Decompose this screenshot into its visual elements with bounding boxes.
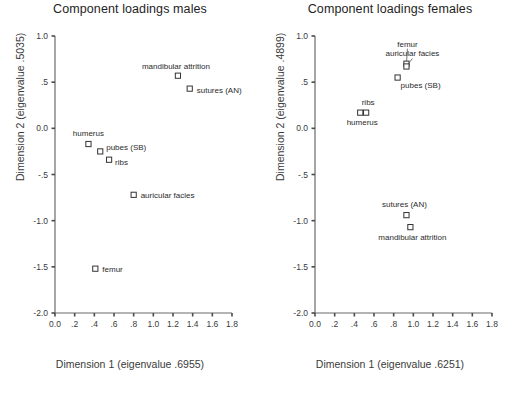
data-point-marker xyxy=(358,110,363,115)
data-point-marker xyxy=(131,192,136,197)
y-tick-label: -1.0 xyxy=(33,216,48,226)
data-point-label: humerus xyxy=(73,129,104,138)
x-tick-label: 1.8 xyxy=(486,319,498,329)
data-point-marker xyxy=(106,157,111,162)
x-tick-label: .2 xyxy=(71,319,78,329)
data-point-marker xyxy=(404,213,409,218)
x-tick-label: .4 xyxy=(351,319,358,329)
y-tick-label: .5 xyxy=(301,77,308,87)
y-tick-label: 0.0 xyxy=(296,123,308,133)
data-point-marker xyxy=(93,266,98,271)
scatter-plot-males: 1.0.50.0-.5-1.0-1.5-2.00.0.2.4.6.81.01.2… xyxy=(0,0,260,395)
x-tick-label: 0.0 xyxy=(309,319,321,329)
chart-panel-females: Component loadings females Dimension 2 (… xyxy=(260,0,520,395)
data-point-marker xyxy=(98,149,103,154)
y-tick-label: -2.0 xyxy=(293,308,308,318)
chart-panel-males: Component loadings males Dimension 2 (ei… xyxy=(0,0,260,395)
x-tick-label: 1.2 xyxy=(427,319,439,329)
x-axis-title-males: Dimension 1 (eigenvalue .6955) xyxy=(0,358,260,370)
data-point-label: mandibular attrition xyxy=(142,62,210,71)
data-point-label: pubes (SB) xyxy=(106,143,146,152)
data-point-label: sutures (AN) xyxy=(197,86,242,95)
x-tick-label: .8 xyxy=(390,319,397,329)
data-point-label: auricular facies xyxy=(141,191,195,200)
y-tick-label: -2.0 xyxy=(33,308,48,318)
data-point-label: humerus xyxy=(347,118,378,127)
data-point-label: auricular facies xyxy=(386,49,440,58)
data-point-marker xyxy=(404,64,409,69)
scatter-plot-females: 1.0.50.0-.5-1.0-1.5-2.00.0.2.4.6.81.01.2… xyxy=(260,0,520,395)
data-point-marker xyxy=(364,110,369,115)
data-point-label: ribs xyxy=(362,98,375,107)
data-point-label: sutures (AN) xyxy=(382,200,427,209)
data-point-label: mandibular attrition xyxy=(378,233,446,242)
y-tick-label: .5 xyxy=(41,77,48,87)
x-tick-label: 1.6 xyxy=(206,319,218,329)
y-tick-label: 1.0 xyxy=(36,31,48,41)
x-tick-label: 1.4 xyxy=(447,319,459,329)
x-tick-label: 1.0 xyxy=(147,319,159,329)
data-point-marker xyxy=(175,73,180,78)
x-tick-label: 0.0 xyxy=(49,319,61,329)
y-tick-label: -1.5 xyxy=(293,262,308,272)
x-tick-label: .6 xyxy=(370,319,377,329)
data-point-label: femur xyxy=(102,265,123,274)
x-tick-label: .8 xyxy=(130,319,137,329)
x-tick-label: .4 xyxy=(91,319,98,329)
y-tick-label: 0.0 xyxy=(36,123,48,133)
data-point-label: pubes (SB) xyxy=(401,81,441,90)
y-tick-label: 1.0 xyxy=(296,31,308,41)
x-tick-label: .6 xyxy=(110,319,117,329)
y-tick-label: -.5 xyxy=(298,170,308,180)
component-loadings-figure: Component loadings males Dimension 2 (ei… xyxy=(0,0,520,395)
y-tick-label: -.5 xyxy=(38,170,48,180)
x-tick-label: 1.6 xyxy=(466,319,478,329)
data-point-label: femur xyxy=(397,40,418,49)
y-tick-label: -1.0 xyxy=(293,216,308,226)
data-point-marker xyxy=(86,141,91,146)
data-point-label: ribs xyxy=(115,158,128,167)
data-point-marker xyxy=(395,75,400,80)
data-point-marker xyxy=(408,225,413,230)
data-point-marker xyxy=(187,86,192,91)
x-tick-label: .2 xyxy=(331,319,338,329)
y-tick-label: -1.5 xyxy=(33,262,48,272)
x-tick-label: 1.8 xyxy=(226,319,238,329)
x-tick-label: 1.4 xyxy=(187,319,199,329)
x-tick-label: 1.2 xyxy=(167,319,179,329)
x-axis-title-females: Dimension 1 (eigenvalue .6251) xyxy=(260,358,520,370)
x-tick-label: 1.0 xyxy=(407,319,419,329)
